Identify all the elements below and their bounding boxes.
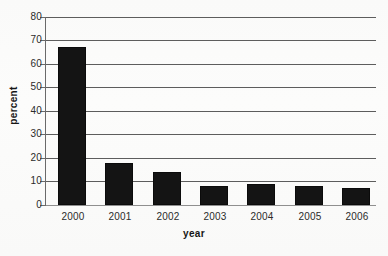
- chart-screenshot: 80 70 60 50 40 30 20 10 0 2000 2001 2002…: [0, 0, 388, 256]
- axis-line-x: [45, 205, 376, 206]
- ytick-label-20: 20: [2, 153, 42, 163]
- gridline-80: [45, 17, 376, 18]
- gridline-20: [45, 158, 376, 159]
- bar-2005: [295, 186, 323, 205]
- bar-2000: [58, 47, 86, 205]
- gridline-40: [45, 111, 376, 112]
- bar-2001: [105, 163, 133, 205]
- gridline-60: [45, 64, 376, 65]
- gridline-50: [45, 87, 376, 88]
- ytick-label-70: 70: [2, 35, 42, 45]
- bar-2006: [342, 188, 370, 205]
- bar-2003: [200, 186, 228, 205]
- xtick-label-2004: 2004: [237, 211, 287, 222]
- ytick-label-10: 10: [2, 176, 42, 186]
- y-axis-title: percent: [8, 71, 19, 141]
- bar-chart: 80 70 60 50 40 30 20 10 0 2000 2001 2002…: [0, 0, 388, 256]
- bar-2004: [247, 184, 275, 205]
- gridline-30: [45, 134, 376, 135]
- ytick-label-60: 60: [2, 59, 42, 69]
- ytick-label-0: 0: [2, 200, 42, 210]
- axis-line-y: [45, 17, 46, 206]
- xtick-label-2005: 2005: [285, 211, 335, 222]
- ytick-label-80: 80: [2, 12, 42, 22]
- bar-2002: [153, 172, 181, 205]
- x-axis-title: year: [0, 228, 388, 239]
- xtick-label-2006: 2006: [332, 211, 382, 222]
- xtick-label-2000: 2000: [48, 211, 98, 222]
- gridline-10: [45, 181, 376, 182]
- xtick-label-2002: 2002: [143, 211, 193, 222]
- xtick-label-2001: 2001: [95, 211, 145, 222]
- gridline-70: [45, 40, 376, 41]
- xtick-label-2003: 2003: [190, 211, 240, 222]
